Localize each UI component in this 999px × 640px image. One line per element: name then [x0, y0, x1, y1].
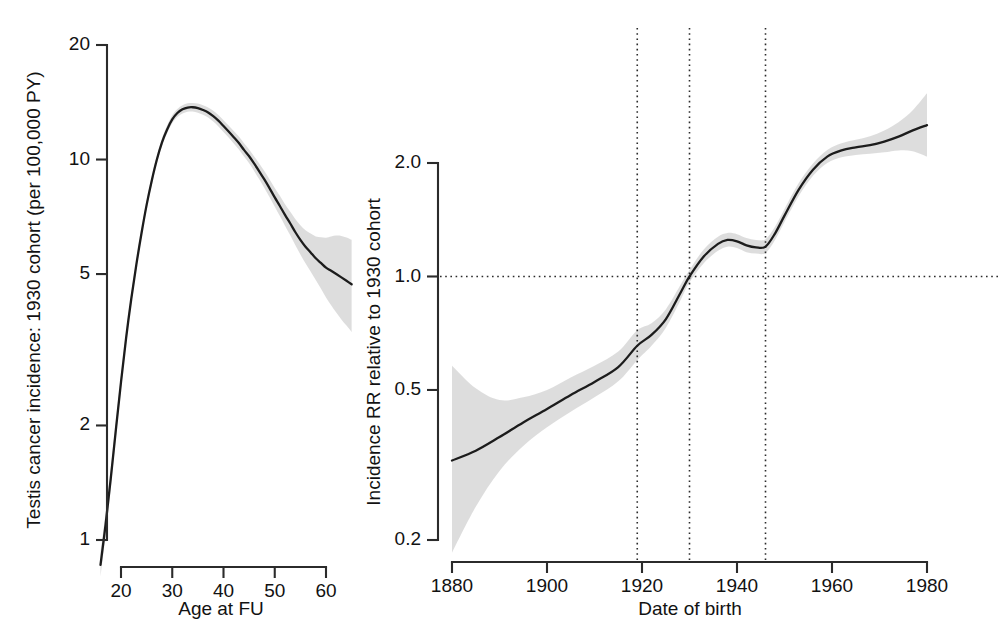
right-x-tick-label: 1900 — [526, 575, 568, 596]
right-event-lines — [637, 28, 765, 562]
right-panel: 0.20.51.02.0 188019001920194019601980 In… — [360, 0, 999, 640]
right-confidence-band — [452, 93, 927, 552]
right-panel-svg: 0.20.51.02.0 188019001920194019601980 In… — [360, 0, 999, 640]
right-y-tick-label: 0.2 — [395, 528, 421, 549]
right-y-axis: 0.20.51.02.0 — [395, 151, 438, 549]
left-x-tick-label: 60 — [315, 580, 336, 601]
right-x-tick-label: 1960 — [811, 575, 853, 596]
left-panel: 1251020 2030405060 Testis cancer inciden… — [0, 0, 400, 640]
right-y-tick-label: 0.5 — [395, 378, 421, 399]
right-x-axis-title: Date of birth — [638, 598, 742, 619]
left-panel-svg: 1251020 2030405060 Testis cancer inciden… — [0, 0, 400, 640]
right-x-tick-label: 1980 — [906, 575, 948, 596]
left-x-tick-label: 50 — [264, 580, 285, 601]
figure-root: 1251020 2030405060 Testis cancer inciden… — [0, 0, 999, 640]
right-x-tick-label: 1940 — [716, 575, 758, 596]
left-y-tick-label: 2 — [79, 413, 90, 434]
right-x-tick-label: 1920 — [621, 575, 663, 596]
right-y-axis-title: Incidence RR relative to 1930 cohort — [363, 198, 384, 506]
right-y-tick-label: 1.0 — [395, 265, 421, 286]
left-y-tick-label: 1 — [79, 528, 90, 549]
right-plot-area — [440, 28, 999, 562]
right-x-axis: 188019001920194019601980 — [431, 562, 948, 596]
left-confidence-band — [101, 103, 352, 577]
right-y-tick-label: 2.0 — [395, 151, 421, 172]
right-x-tick-label: 1880 — [431, 575, 473, 596]
left-y-axis-title: Testis cancer incidence: 1930 cohort (pe… — [23, 71, 44, 528]
left-x-tick-label: 20 — [110, 580, 131, 601]
left-y-axis: 1251020 — [69, 33, 107, 549]
left-x-axis: 2030405060 — [110, 567, 336, 601]
left-incidence-curve — [101, 107, 352, 565]
left-y-tick-label: 10 — [69, 148, 90, 169]
left-y-tick-label: 20 — [69, 33, 90, 54]
left-x-axis-title: Age at FU — [178, 598, 264, 619]
left-y-tick-label: 5 — [79, 262, 90, 283]
left-plot-area — [101, 103, 352, 577]
